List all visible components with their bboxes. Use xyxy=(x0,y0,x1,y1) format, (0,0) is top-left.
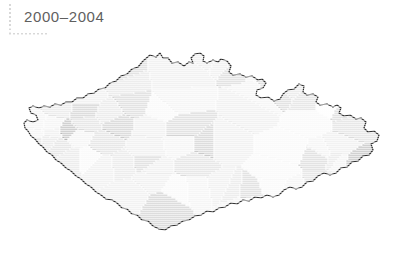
choropleth-map: LounySemilyChebOlomoucTáborBerounZnojmoB… xyxy=(0,28,412,264)
district-region: Kroměříž xyxy=(306,28,412,96)
district-region: Prostějov xyxy=(330,52,412,122)
district-region: Plzeň-sever xyxy=(36,146,82,234)
district-region: Semily xyxy=(8,136,30,144)
district-region: Ústí nad Labem xyxy=(204,28,236,56)
district-region: Plzeň-jih xyxy=(16,178,150,264)
district-region: Karviná xyxy=(276,172,336,264)
district-region: Pardubice xyxy=(210,28,256,80)
figure-title: 2000–2004 xyxy=(24,8,104,25)
figure-root: 2000–2004 LounySemilyChebOlomoucTáborBer… xyxy=(0,0,412,264)
district-region: Nymburk xyxy=(146,30,216,88)
district-region: Tábor xyxy=(0,148,52,264)
district-region: Uherské Hradiště xyxy=(246,28,306,82)
district-region: Frýdek-Místek xyxy=(302,170,412,264)
district-region: Hradec Králové xyxy=(124,136,166,156)
district-region: Louny xyxy=(0,134,28,168)
district-layer: LounySemilyChebOlomoucTáborBerounZnojmoB… xyxy=(0,28,412,264)
district-region: Zlín xyxy=(260,28,334,84)
district-region: Praha-západ xyxy=(336,164,412,248)
district-region: Rakovník xyxy=(0,28,72,120)
czech-republic-map-svg: LounySemilyChebOlomoucTáborBerounZnojmoB… xyxy=(0,28,412,264)
district-region: Znojmo xyxy=(0,76,46,130)
district-region: Prachatice xyxy=(246,196,310,264)
